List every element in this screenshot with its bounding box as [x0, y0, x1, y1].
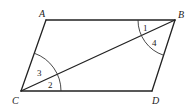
vertex-label-b: B — [178, 9, 184, 20]
diagonal-cb — [21, 20, 175, 91]
vertex-label-c: C — [12, 95, 19, 106]
side-ca — [21, 20, 46, 91]
parallelogram-diagram: A B C D 1 4 3 2 — [0, 0, 192, 109]
angle-label-1: 1 — [143, 23, 148, 33]
angle-label-2: 2 — [48, 80, 53, 90]
side-bd — [152, 20, 175, 91]
angle-arc-b — [138, 20, 164, 55]
vertex-label-a: A — [38, 8, 46, 19]
angle-label-4: 4 — [152, 38, 157, 48]
angle-label-3: 3 — [37, 68, 42, 78]
vertex-label-d: D — [151, 95, 160, 106]
diagram-svg: A B C D 1 4 3 2 — [0, 0, 192, 109]
